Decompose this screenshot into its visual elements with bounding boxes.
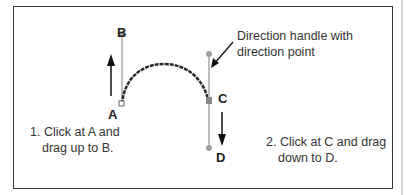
label-a: A <box>108 107 117 122</box>
up-arrow-head-icon <box>107 54 115 66</box>
step-2-text: 2. Click at C and drag down to D. <box>266 134 386 166</box>
down-arrow-head-icon <box>218 134 226 146</box>
direction-point-d <box>206 145 212 151</box>
step-2-line-1: 2. Click at C and drag <box>266 134 386 150</box>
callout-line-1: Direction handle with <box>237 28 353 44</box>
direction-point-top <box>206 51 212 57</box>
callout-text: Direction handle with direction point <box>237 28 353 60</box>
label-d: D <box>216 150 225 165</box>
label-c: C <box>218 91 227 106</box>
step-1-line-1: 1. Click at A and <box>30 124 120 140</box>
anchor-point-c <box>206 97 212 104</box>
anchor-point-a <box>119 101 124 106</box>
step-1-line-2: drag up to B. <box>30 140 120 156</box>
step-2-line-2: down to D. <box>266 150 386 166</box>
callout-line-2: direction point <box>237 44 353 60</box>
step-1-text: 1. Click at A and drag up to B. <box>30 124 120 156</box>
callout-pointer-icon <box>214 42 233 64</box>
curve-path <box>122 64 209 104</box>
label-b: B <box>117 25 126 40</box>
